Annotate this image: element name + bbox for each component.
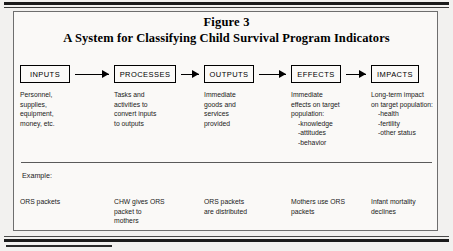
example-column-2: CHW gives ORSpacket tomothers (114, 197, 165, 226)
example-line: Infant mortality (371, 197, 416, 207)
top-rule-thick (4, 2, 449, 5)
description-subitem: -other status (371, 128, 433, 138)
flow-node-processes: PROCESSES (114, 65, 176, 83)
flow-node-inputs: INPUTS (20, 65, 70, 83)
example-line: mothers (114, 216, 165, 226)
description-line: equipment, (20, 109, 55, 119)
flow-box-label: PROCESSES (114, 65, 176, 83)
figure-number: Figure 3 (14, 15, 439, 30)
description-subitem: -behavior (291, 138, 340, 148)
example-line: are distributed (204, 207, 247, 217)
flow-node-outputs: OUTPUTS (204, 65, 254, 83)
top-rule-thin (4, 7, 449, 8)
bottom-rule-stub (6, 245, 112, 247)
flow-node-impacts: IMPACTS (371, 65, 419, 83)
bottom-rule-thick (4, 239, 449, 242)
arrow-head-icon (279, 70, 286, 78)
example-line: ORS packets (20, 197, 60, 207)
example-line: Mothers use ORS (291, 197, 345, 207)
description-line: activities to (114, 100, 156, 110)
example-column-4: Mothers use ORSpackets (291, 197, 345, 216)
description-line: to outputs (114, 119, 156, 129)
description-column-5: Long-term impacton target population:-he… (371, 90, 433, 138)
arrow-head-icon (192, 70, 199, 78)
example-line: ORS packets (204, 197, 247, 207)
description-line: on target population: (371, 100, 433, 110)
description-line: supplies, (20, 100, 55, 110)
flow-node-effects: EFFECTS (291, 65, 341, 83)
description-line: population: (291, 109, 340, 119)
description-column-1: Personnel,supplies,equipment,money, etc. (20, 90, 55, 128)
section-divider (21, 162, 432, 163)
flow-arrow-1 (75, 73, 109, 75)
flow-arrow-4 (346, 73, 366, 75)
bottom-rule-thin (4, 236, 449, 237)
example-line: packet to (114, 207, 165, 217)
arrow-head-icon (359, 70, 366, 78)
flow-box-label: EFFECTS (291, 65, 341, 83)
flow-arrow-2 (181, 73, 199, 75)
description-line: Long-term impact (371, 90, 433, 100)
description-line: Tasks and (114, 90, 156, 100)
description-subitem: -attitudes (291, 128, 340, 138)
arrow-head-icon (102, 70, 109, 78)
figure-title: Figure 3 A System for Classifying Child … (14, 15, 439, 46)
description-subitem: -health (371, 109, 433, 119)
example-line: declines (371, 207, 416, 217)
description-line: Personnel, (20, 90, 55, 100)
figure-caption: A System for Classifying Child Survival … (14, 30, 439, 46)
description-subitem: -fertility (371, 119, 433, 129)
description-line: Immediate (204, 90, 236, 100)
description-column-2: Tasks andactivities toconvert inputsto o… (114, 90, 156, 128)
description-subitem: -knowledge (291, 119, 340, 129)
description-line: goods and (204, 100, 236, 110)
flow-diagram-row: INPUTSPROCESSESOUTPUTSEFFECTSIMPACTS (14, 65, 439, 85)
example-column-1: ORS packets (20, 197, 60, 207)
example-line: packets (291, 207, 345, 217)
flow-box-label: INPUTS (20, 65, 70, 83)
flow-arrow-3 (259, 73, 286, 75)
description-line: services (204, 109, 236, 119)
figure-frame: Figure 3 A System for Classifying Child … (13, 11, 438, 231)
example-column-3: ORS packetsare distributed (204, 197, 247, 216)
description-column-3: Immediategoods andservicesprovided (204, 90, 236, 128)
example-line: CHW gives ORS (114, 197, 165, 207)
example-label: Example: (22, 171, 52, 180)
flow-box-label: OUTPUTS (204, 65, 254, 83)
description-column-4: Immediateeffects on targetpopulation:-kn… (291, 90, 340, 148)
flow-box-label: IMPACTS (371, 65, 419, 83)
example-column-5: Infant mortalitydeclines (371, 197, 416, 216)
description-line: Immediate (291, 90, 340, 100)
description-line: effects on target (291, 100, 340, 110)
description-line: provided (204, 119, 236, 129)
description-line: money, etc. (20, 119, 55, 129)
description-line: convert inputs (114, 109, 156, 119)
